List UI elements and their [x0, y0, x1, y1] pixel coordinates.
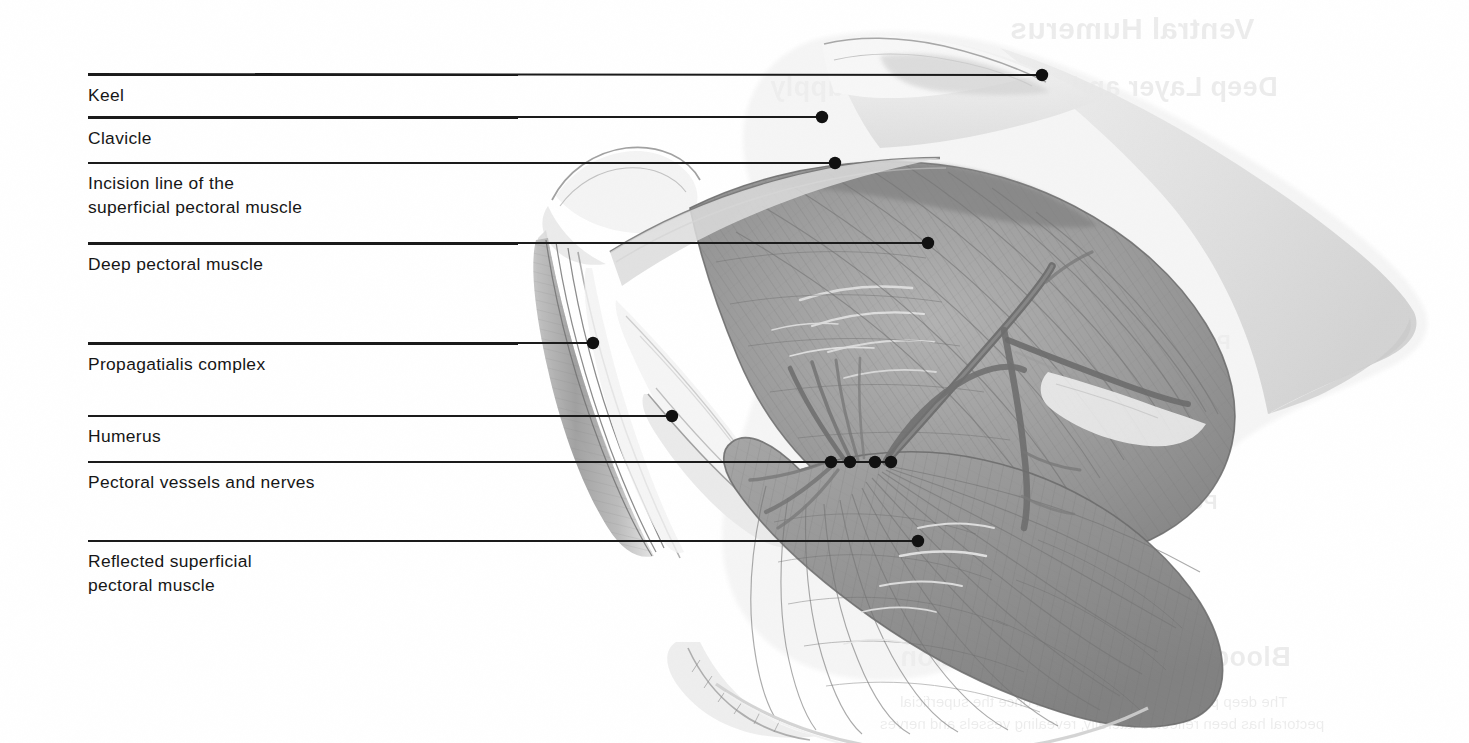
label-rule-propagatialis-complex	[88, 343, 518, 345]
label-humerus: Humerus	[88, 425, 161, 449]
label-rule-humerus	[88, 415, 518, 417]
label-rule-incision-line	[88, 162, 518, 164]
label-column: KeelClavicleIncision line of the superfi…	[0, 0, 520, 743]
label-propagatialis-complex: Propagatialis complex	[88, 353, 265, 377]
label-pectoral-vessels-and-nerves: Pectoral vessels and nerves	[88, 471, 315, 495]
label-reflected-superficial-pectoral-muscle: Reflected superficial pectoral muscle	[88, 550, 252, 597]
label-rule-keel	[88, 74, 518, 76]
label-rule-reflected-superficial-pectoral-muscle	[88, 540, 518, 542]
label-keel: Keel	[88, 84, 124, 108]
anatomical-plate: Ventral HumerusDeep Layer and Neurovascu…	[0, 0, 1469, 743]
label-deep-pectoral-muscle: Deep pectoral muscle	[88, 253, 263, 277]
label-rule-clavicle	[88, 117, 518, 119]
label-incision-line: Incision line of the superficial pectora…	[88, 172, 302, 219]
label-clavicle: Clavicle	[88, 127, 152, 151]
label-rule-pectoral-vessels-and-nerves	[88, 461, 518, 463]
label-rule-deep-pectoral-muscle	[88, 243, 518, 245]
